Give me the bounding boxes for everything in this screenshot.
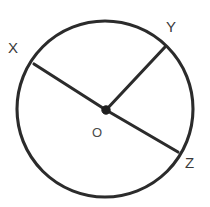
point-label-x: X: [8, 40, 18, 55]
radius-segment-oz: [106, 110, 178, 152]
point-label-z: Z: [185, 155, 194, 170]
radius-segment-ox: [34, 64, 106, 110]
circle-diagram: X Y Z O: [0, 0, 210, 207]
point-label-y: Y: [166, 19, 176, 34]
center-point-label-o: O: [92, 126, 102, 139]
circle-diagram-canvas: [0, 0, 210, 207]
center-point-dot: [102, 106, 110, 114]
radius-segment-oy: [106, 47, 165, 110]
